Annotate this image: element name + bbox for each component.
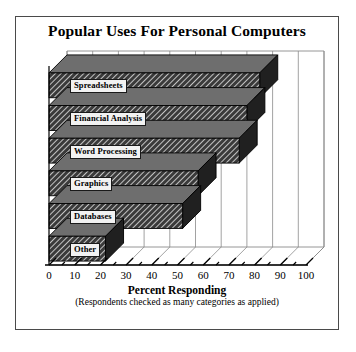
x-tick-label: 20 [95, 269, 106, 281]
x-tick-label: 70 [223, 269, 234, 281]
plot-svg [19, 47, 337, 291]
x-tick-label: 100 [298, 269, 315, 281]
axis-caption: Percent Responding (Respondents checked … [16, 284, 338, 307]
bar-category-label: Other [70, 243, 100, 257]
bar-category-label: Databases [70, 210, 116, 224]
x-tick-label: 90 [275, 269, 286, 281]
x-axis-subtitle: (Respondents checked as many categories … [16, 297, 338, 307]
plot-area: SpreadsheetsFinancial AnalysisWord Proce… [19, 47, 337, 291]
x-tick-label: 0 [46, 269, 52, 281]
bar-category-label: Spreadsheets [70, 79, 127, 93]
x-axis-title: Percent Responding [16, 284, 338, 296]
bar-category-label: Graphics [70, 177, 112, 191]
x-tick-label: 40 [146, 269, 157, 281]
x-tick-label: 80 [249, 269, 260, 281]
x-tick-label: 10 [69, 269, 80, 281]
chart-title: Popular Uses For Personal Computers [16, 22, 338, 40]
bar-category-label: Word Processing [70, 145, 141, 159]
x-tick-label: 50 [172, 269, 183, 281]
bar-category-label: Financial Analysis [70, 112, 146, 126]
figure-frame: Popular Uses For Personal Computers Spre… [15, 16, 339, 330]
x-tick-label: 30 [121, 269, 132, 281]
x-tick-label: 60 [198, 269, 209, 281]
